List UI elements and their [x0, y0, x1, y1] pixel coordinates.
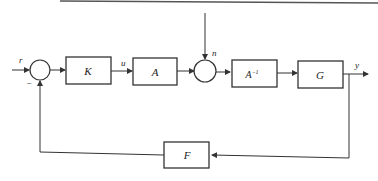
block-diagram: r − K u A n A−1 G y F [0, 0, 378, 181]
summing-junction-1 [30, 60, 50, 80]
label-u: u [121, 58, 126, 68]
summing-junction-2 [194, 60, 216, 82]
label-n: n [212, 48, 217, 58]
minus-sign: − [26, 78, 32, 88]
label-r: r [19, 55, 23, 65]
label-y: y [354, 60, 359, 70]
feedback-path-to-sum1 [40, 81, 164, 155]
block-g-label: G [316, 69, 324, 81]
block-k-label: K [83, 65, 92, 77]
block-a-label: A [151, 66, 159, 78]
diagram-svg: r − K u A n A−1 G y F [0, 0, 378, 181]
top-border-line [60, 1, 378, 3]
block-f-label: F [183, 149, 191, 161]
